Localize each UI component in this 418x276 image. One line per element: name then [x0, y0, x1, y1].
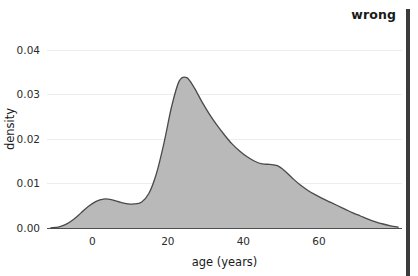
y-tick-label-1: 0.01	[17, 177, 40, 189]
x-tick-label-0: 0	[89, 235, 96, 247]
density-curve	[51, 77, 398, 228]
density-chart-svg: 0.000.010.020.030.04 0204060 age (years)…	[0, 0, 418, 276]
y-tick-label-4: 0.04	[17, 44, 41, 56]
y-tick-label-0: 0.00	[17, 222, 40, 234]
x-tick-label-2: 40	[237, 235, 250, 247]
y-tick-labels: 0.000.010.020.030.04	[17, 44, 41, 234]
density-plot-figure: 0.000.010.020.030.04 0204060 age (years)…	[0, 0, 418, 276]
right-edge-marker-bar	[406, 9, 410, 276]
x-axis-title: age (years)	[192, 255, 258, 269]
wrong-annotation-label: wrong	[351, 7, 396, 22]
x-tick-label-3: 60	[312, 235, 325, 247]
density-fill-area	[51, 77, 398, 228]
x-tick-labels: 0204060	[89, 235, 326, 247]
y-tick-label-2: 0.02	[17, 133, 40, 145]
x-tick-label-1: 20	[161, 235, 174, 247]
y-axis-title: density	[3, 108, 17, 150]
y-tick-label-3: 0.03	[17, 88, 40, 100]
